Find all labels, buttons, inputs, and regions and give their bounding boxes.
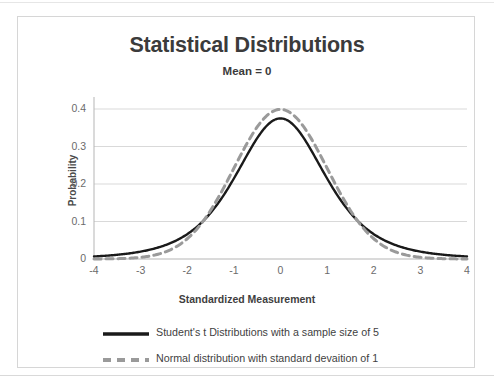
y-tick-label: 0.4 bbox=[46, 102, 86, 114]
x-tick-label: -3 bbox=[126, 264, 156, 276]
legend-line-swatch bbox=[102, 326, 150, 338]
page-top-divider bbox=[0, 2, 494, 3]
legend-label: Normal distribution with standard devait… bbox=[156, 352, 378, 364]
legend-line-swatch bbox=[102, 352, 150, 364]
x-axis-title: Standardized Measurement bbox=[18, 293, 476, 305]
x-tick-label: -2 bbox=[172, 264, 202, 276]
y-tick-label: 0.2 bbox=[46, 177, 86, 189]
x-tick-label: -4 bbox=[79, 264, 109, 276]
x-tick-label: 4 bbox=[452, 264, 482, 276]
legend-label: Student's t Distributions with a sample … bbox=[156, 326, 379, 338]
y-tick-label: 0.3 bbox=[46, 140, 86, 152]
legend-item: Normal distribution with standard devait… bbox=[18, 345, 476, 371]
x-tick-label: 2 bbox=[359, 264, 389, 276]
chart-container: Statistical Distributions Mean = 0 Proba… bbox=[17, 16, 475, 368]
legend-item: Student's t Distributions with a sample … bbox=[18, 319, 476, 345]
x-tick-label: 0 bbox=[266, 264, 296, 276]
x-tick-label: 1 bbox=[312, 264, 342, 276]
plot-area bbox=[18, 17, 476, 369]
chart-legend: Student's t Distributions with a sample … bbox=[18, 319, 476, 371]
x-tick-label: -1 bbox=[219, 264, 249, 276]
y-tick-label: 0 bbox=[46, 252, 86, 264]
x-tick-label: 3 bbox=[405, 264, 435, 276]
page-bottom-divider bbox=[0, 375, 494, 376]
y-tick-label: 0.1 bbox=[46, 215, 86, 227]
